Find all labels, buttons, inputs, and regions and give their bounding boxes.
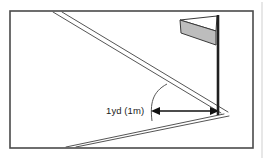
distance-label: 1yd (1m) [106, 105, 144, 116]
diagram-svg: 1yd (1m) [0, 0, 269, 160]
diagram-border [10, 11, 253, 148]
diagram-canvas: 1yd (1m) [0, 0, 269, 160]
